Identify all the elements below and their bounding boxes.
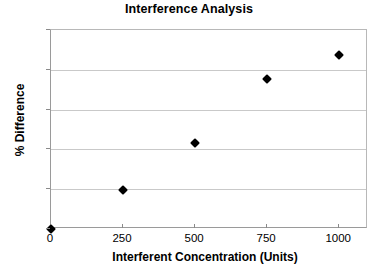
x-tick-label-0: 0 bbox=[47, 232, 53, 244]
x-axis-title: Interferent Concentration (Units) bbox=[40, 250, 370, 264]
gridline-y-20 bbox=[51, 70, 366, 71]
x-tick-label-250: 250 bbox=[112, 232, 131, 244]
x-tick-label-500: 500 bbox=[184, 232, 203, 244]
x-tick-mark-1000 bbox=[338, 224, 339, 228]
y-tick-mark-5 bbox=[46, 188, 50, 189]
chart-title: Interference Analysis bbox=[0, 2, 378, 16]
data-point bbox=[262, 74, 272, 84]
x-tick-label-1000: 1000 bbox=[325, 232, 351, 244]
data-point bbox=[118, 185, 128, 195]
x-tick-mark-250 bbox=[122, 224, 123, 228]
x-tick-mark-500 bbox=[194, 224, 195, 228]
plot-area bbox=[50, 29, 367, 228]
gridline-y-10 bbox=[51, 149, 366, 150]
y-tick-mark-15 bbox=[46, 109, 50, 110]
x-tick-mark-750 bbox=[266, 224, 267, 228]
y-tick-mark-20 bbox=[46, 69, 50, 70]
x-tick-label-750: 750 bbox=[257, 232, 276, 244]
chart-container: Interference Analysis % Difference Inter… bbox=[0, 0, 378, 274]
y-axis-title: % Difference bbox=[13, 50, 27, 190]
y-tick-mark-25 bbox=[46, 29, 50, 30]
data-point bbox=[190, 138, 200, 148]
y-tick-mark-0 bbox=[46, 228, 50, 229]
y-tick-mark-10 bbox=[46, 148, 50, 149]
data-point bbox=[334, 51, 344, 61]
gridline-y-15 bbox=[51, 110, 366, 111]
gridline-y-5 bbox=[51, 189, 366, 190]
